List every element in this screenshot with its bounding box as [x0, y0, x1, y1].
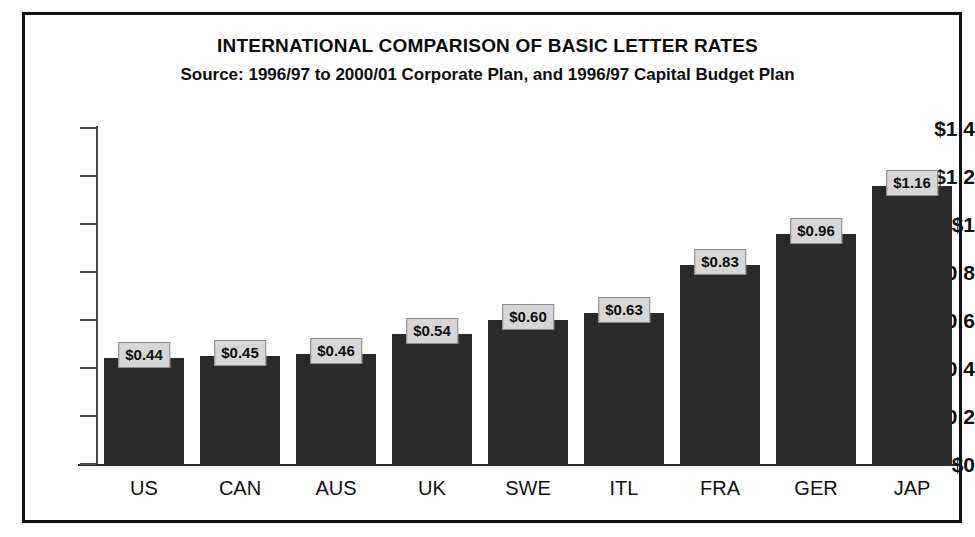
bar	[392, 334, 472, 464]
bar-series: $0.44$0.45$0.46$0.54$0.60$0.63$0.83$0.96…	[96, 128, 960, 464]
bar	[680, 265, 760, 464]
bar-group: $0.54	[384, 128, 480, 464]
bar-group: $0.46	[288, 128, 384, 464]
y-axis-tick	[80, 415, 96, 417]
bar-value-label: $0.63	[598, 297, 650, 323]
y-axis-tick	[80, 175, 96, 177]
x-axis-category-label: UK	[384, 478, 480, 498]
page-title: INTERNATIONAL COMPARISON OF BASIC LETTER…	[0, 34, 975, 58]
y-axis-tick	[80, 319, 96, 321]
y-axis-tick	[80, 271, 96, 273]
x-axis-line	[78, 464, 962, 466]
bar-value-label: $1.16	[886, 170, 938, 196]
chart-title-block: INTERNATIONAL COMPARISON OF BASIC LETTER…	[0, 34, 975, 87]
bar-value-label: $0.96	[790, 218, 842, 244]
bar	[488, 320, 568, 464]
bar-value-label: $0.60	[502, 304, 554, 330]
y-axis-tick	[80, 127, 96, 129]
bar	[200, 356, 280, 464]
bar-group: $0.45	[192, 128, 288, 464]
x-axis-category-label: FRA	[672, 478, 768, 498]
bar	[872, 186, 952, 464]
bar-value-label: $0.54	[406, 318, 458, 344]
x-axis-category-label: GER	[768, 478, 864, 498]
bar	[584, 313, 664, 464]
x-axis-category-label: ITL	[576, 478, 672, 498]
x-axis-category-label: CAN	[192, 478, 288, 498]
bar-group: $0.60	[480, 128, 576, 464]
y-axis-tick	[80, 367, 96, 369]
x-axis-category-label: US	[96, 478, 192, 498]
bar	[776, 234, 856, 464]
bar-value-label: $0.44	[118, 342, 170, 368]
chart-screenshot: INTERNATIONAL COMPARISON OF BASIC LETTER…	[0, 0, 975, 537]
bar-group: $0.44	[96, 128, 192, 464]
chart-subtitle: Source: 1996/97 to 2000/01 Corporate Pla…	[0, 63, 975, 87]
y-axis-tick	[80, 223, 96, 225]
bar	[104, 358, 184, 464]
bar-value-label: $0.83	[694, 249, 746, 275]
bar-group: $0.63	[576, 128, 672, 464]
y-axis-tick	[80, 463, 96, 465]
x-axis-category-label: SWE	[480, 478, 576, 498]
bar-group: $0.83	[672, 128, 768, 464]
bar	[296, 354, 376, 464]
bar-value-label: $0.45	[214, 340, 266, 366]
bar-value-label: $0.46	[310, 338, 362, 364]
x-axis-category-label: JAP	[864, 478, 960, 498]
bar-group: $0.96	[768, 128, 864, 464]
x-axis-category-label: AUS	[288, 478, 384, 498]
bar-group: $1.16	[864, 128, 960, 464]
